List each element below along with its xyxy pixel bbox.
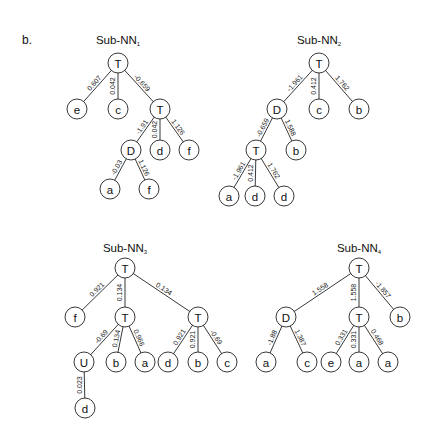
node-label: e bbox=[328, 357, 334, 369]
tree-node-T: T bbox=[115, 307, 135, 327]
tree-title: Sub-NN1 bbox=[96, 34, 141, 47]
edge-weight-label: 1.558 bbox=[350, 284, 357, 302]
tree-node-D: D bbox=[121, 140, 141, 160]
tree-node-d: d bbox=[158, 352, 178, 372]
tree-node-c: c bbox=[309, 99, 329, 119]
node-label: c bbox=[115, 104, 121, 116]
tree-node-T: T bbox=[188, 307, 208, 327]
tree-node-b: b bbox=[349, 99, 369, 119]
node-label: T bbox=[156, 104, 163, 116]
tree-node-T: T bbox=[115, 258, 135, 278]
node-label: T bbox=[194, 312, 201, 324]
tree-node-a: a bbox=[100, 179, 120, 199]
node-label: e bbox=[74, 104, 80, 116]
node-label: d bbox=[157, 145, 163, 157]
node-label: D bbox=[282, 312, 290, 324]
tree-node-a: a bbox=[378, 352, 398, 372]
node-label: a bbox=[356, 357, 363, 369]
node-label: T bbox=[252, 145, 259, 157]
tree-node-D: D bbox=[267, 99, 287, 119]
tree-node-c: c bbox=[108, 99, 128, 119]
tree-node-b: b bbox=[106, 352, 126, 372]
node-label: d bbox=[82, 403, 88, 415]
tree-node-e: e bbox=[67, 99, 87, 119]
tree-node-a: a bbox=[135, 352, 155, 372]
tree-node-b: b bbox=[390, 307, 410, 327]
tree-node-d: d bbox=[75, 398, 95, 418]
node-label: b bbox=[195, 357, 201, 369]
node-label: c bbox=[224, 357, 230, 369]
tree-node-T: T bbox=[349, 258, 369, 278]
edge-weight-label: 0.412 bbox=[310, 77, 317, 95]
tree-node-f: f bbox=[179, 140, 199, 160]
edge-weight-label: 0.042 bbox=[151, 121, 158, 139]
tree-diagram-canvas: b. Sub-NN10.6070.042-0.659-1.910.0421.12… bbox=[0, 0, 429, 445]
node-label: b bbox=[356, 104, 362, 116]
edge-weight-label: 0.042 bbox=[109, 77, 116, 95]
tree-title: Sub-NN2 bbox=[297, 34, 342, 47]
node-label: T bbox=[121, 263, 128, 275]
tree-sub-nn-2: Sub-NN2-1.9610.4121.762-0.6591.588-1.961… bbox=[219, 34, 369, 206]
tree-node-a: a bbox=[256, 352, 276, 372]
tree-node-c: c bbox=[297, 352, 317, 372]
tree-title: Sub-NN3 bbox=[103, 242, 148, 255]
tree-sub-nn-3: Sub-NN30.9210.1340.134-0.690.1340.9660.9… bbox=[65, 242, 237, 418]
tree-node-U: U bbox=[74, 352, 94, 372]
tree-node-a: a bbox=[349, 352, 369, 372]
edge-weight-label: 0.331 bbox=[350, 331, 357, 349]
edge-weight-label: 0.412 bbox=[247, 164, 254, 182]
node-label: c bbox=[316, 104, 322, 116]
tree-node-d: d bbox=[245, 186, 265, 206]
tree-node-d: d bbox=[274, 186, 294, 206]
tree-node-f: f bbox=[139, 179, 159, 199]
tree-node-T: T bbox=[309, 53, 329, 73]
tree-node-T: T bbox=[349, 307, 369, 327]
edge-weight-label: 0.134 bbox=[116, 284, 123, 302]
panel-label: b. bbox=[22, 33, 32, 47]
tree-node-T: T bbox=[150, 99, 170, 119]
node-label: D bbox=[127, 145, 135, 157]
tree-node-b: b bbox=[286, 140, 306, 160]
tree-node-a: a bbox=[219, 186, 239, 206]
node-label: T bbox=[355, 263, 362, 275]
tree-node-T: T bbox=[246, 140, 266, 160]
node-label: d bbox=[252, 191, 258, 203]
node-label: a bbox=[107, 184, 114, 196]
node-label: a bbox=[226, 191, 233, 203]
tree-sub-nn-1: Sub-NN10.6070.042-0.659-1.910.0421.126-0… bbox=[67, 34, 199, 199]
node-label: D bbox=[273, 104, 281, 116]
tree-sub-nn-4: Sub-NN41.5581.558-1.857-1.881.3870.3310.… bbox=[256, 242, 410, 372]
node-label: a bbox=[263, 357, 270, 369]
tree-node-d: d bbox=[150, 140, 170, 160]
trees-group: Sub-NN10.6070.042-0.659-1.910.0421.126-0… bbox=[65, 34, 410, 418]
node-label: d bbox=[281, 191, 287, 203]
tree-edge bbox=[286, 268, 359, 317]
tree-node-f: f bbox=[65, 307, 85, 327]
edge-weight-label: 0.921 bbox=[189, 331, 196, 349]
tree-edge bbox=[125, 268, 198, 317]
tree-node-D: D bbox=[276, 307, 296, 327]
node-label: a bbox=[385, 357, 392, 369]
node-label: b bbox=[397, 312, 403, 324]
node-label: b bbox=[113, 357, 119, 369]
edge-weight-label: 0.023 bbox=[76, 376, 83, 394]
tree-title: Sub-NN4 bbox=[337, 242, 382, 255]
tree-node-T: T bbox=[108, 53, 128, 73]
node-label: d bbox=[165, 357, 171, 369]
node-label: b bbox=[293, 145, 299, 157]
tree-node-e: e bbox=[321, 352, 341, 372]
node-label: T bbox=[355, 312, 362, 324]
node-label: a bbox=[142, 357, 149, 369]
node-label: U bbox=[80, 357, 88, 369]
node-label: c bbox=[304, 357, 310, 369]
tree-node-b: b bbox=[188, 352, 208, 372]
node-label: T bbox=[315, 58, 322, 70]
tree-node-c: c bbox=[217, 352, 237, 372]
node-label: T bbox=[114, 58, 121, 70]
node-label: T bbox=[121, 312, 128, 324]
